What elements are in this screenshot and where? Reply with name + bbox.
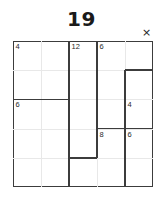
- grid-cell[interactable]: [41, 70, 69, 99]
- grid-cell[interactable]: [13, 129, 41, 158]
- clue-number: 12: [72, 43, 80, 51]
- clue-number: 6: [128, 131, 132, 139]
- grid-cell[interactable]: [97, 99, 125, 128]
- grid-cell[interactable]: [97, 158, 125, 187]
- grid-cell[interactable]: [41, 41, 69, 70]
- clue-number: 6: [100, 43, 104, 51]
- grid-cell[interactable]: [13, 70, 41, 99]
- puzzle-app: 19 × 41266486: [0, 0, 163, 201]
- grid-cell[interactable]: [41, 99, 69, 128]
- puzzle-grid[interactable]: 41266486: [13, 41, 153, 187]
- grid-cell[interactable]: [125, 70, 153, 99]
- clue-number: 6: [16, 101, 20, 109]
- grid-cell[interactable]: [125, 41, 153, 70]
- grid-cell[interactable]: [41, 129, 69, 158]
- grid-cell[interactable]: [69, 70, 97, 99]
- grid-cell[interactable]: [69, 158, 97, 187]
- grid-cell[interactable]: [97, 70, 125, 99]
- clue-number: 4: [128, 101, 132, 109]
- grid-cell[interactable]: [69, 129, 97, 158]
- close-icon[interactable]: ×: [141, 27, 152, 38]
- grid-cell[interactable]: [13, 158, 41, 187]
- grid-cell[interactable]: [69, 99, 97, 128]
- grid-cell[interactable]: [125, 158, 153, 187]
- page-title: 19: [0, 9, 163, 29]
- clue-number: 8: [100, 131, 104, 139]
- grid-cell[interactable]: [41, 158, 69, 187]
- clue-number: 4: [16, 43, 20, 51]
